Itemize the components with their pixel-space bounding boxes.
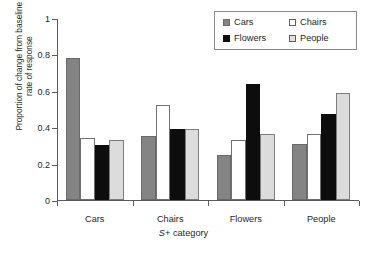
y-axis-title: Proportion of change from baseline rate … [14, 0, 34, 166]
y-tick-mark [52, 165, 57, 166]
bar-people-flowers [321, 114, 336, 200]
chart-legend: Cars Chairs Flowers People [214, 11, 357, 50]
y-tick-mark [52, 55, 57, 56]
bar-chart-figure: Proportion of change from baseline rate … [0, 0, 367, 255]
y-tick-label: 0 [45, 196, 50, 206]
legend-label-people: People [300, 33, 329, 43]
y-tick-mark [52, 92, 57, 93]
bar-flowers-cars [217, 155, 232, 201]
bar-flowers-people [260, 134, 275, 200]
bar-cars-flowers [95, 145, 110, 200]
bar-flowers-flowers [246, 84, 261, 200]
legend-item-people: People [289, 33, 329, 43]
x-tick-mark [284, 201, 285, 206]
x-tick-mark [359, 201, 360, 206]
legend-swatch-flowers [223, 35, 230, 42]
legend-label-flowers: Flowers [234, 33, 266, 43]
x-tick-mark [208, 201, 209, 206]
bar-flowers-chairs [231, 140, 246, 200]
figure-caption [0, 246, 367, 255]
y-tick-label: 0.8 [37, 50, 50, 60]
x-tick-mark [57, 201, 58, 206]
bar-people-cars [292, 144, 307, 200]
legend-swatch-cars [223, 19, 230, 26]
bar-cars-cars [66, 58, 81, 200]
bar-people-chairs [307, 134, 322, 200]
x-tick-label-people: People [307, 214, 336, 224]
bar-cars-people [109, 140, 124, 200]
bar-people-people [336, 93, 351, 200]
y-tick-label: 1 [45, 14, 50, 24]
y-tick-mark [52, 128, 57, 129]
bar-chairs-people [185, 129, 200, 200]
y-tick-label: 0.6 [37, 87, 50, 97]
legend-swatch-chairs [289, 19, 296, 26]
legend-label-cars: Cars [234, 17, 253, 27]
legend-swatch-people [289, 35, 296, 42]
x-axis-title: S+ category [0, 228, 367, 238]
x-tick-label-flowers: Flowers [230, 214, 262, 224]
y-tick-mark [52, 19, 57, 20]
legend-item-cars: Cars [223, 17, 253, 27]
bar-cars-chairs [80, 138, 95, 200]
x-tick-mark [133, 201, 134, 206]
bar-chairs-cars [141, 136, 156, 200]
y-tick-label: 0.4 [37, 123, 50, 133]
legend-item-chairs: Chairs [289, 17, 327, 27]
legend-item-flowers: Flowers [223, 33, 266, 43]
x-tick-label-chairs: Chairs [157, 214, 184, 224]
bar-chairs-flowers [170, 129, 185, 200]
legend-label-chairs: Chairs [300, 17, 327, 27]
x-axis-title-text: S+ category [159, 228, 208, 238]
x-tick-label-cars: Cars [85, 214, 104, 224]
y-tick-label: 0.2 [37, 160, 50, 170]
bar-chairs-chairs [156, 105, 171, 200]
y-axis-line [57, 19, 58, 201]
